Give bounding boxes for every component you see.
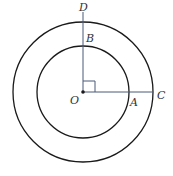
right-angle-marker <box>83 81 95 92</box>
label-A: A <box>129 96 138 109</box>
label-D: D <box>78 1 88 14</box>
label-B: B <box>85 32 94 45</box>
center-point <box>81 90 85 94</box>
concentric-circles-diagram: D B O A C <box>0 0 173 176</box>
label-C: C <box>157 89 166 102</box>
label-O: O <box>70 94 79 107</box>
